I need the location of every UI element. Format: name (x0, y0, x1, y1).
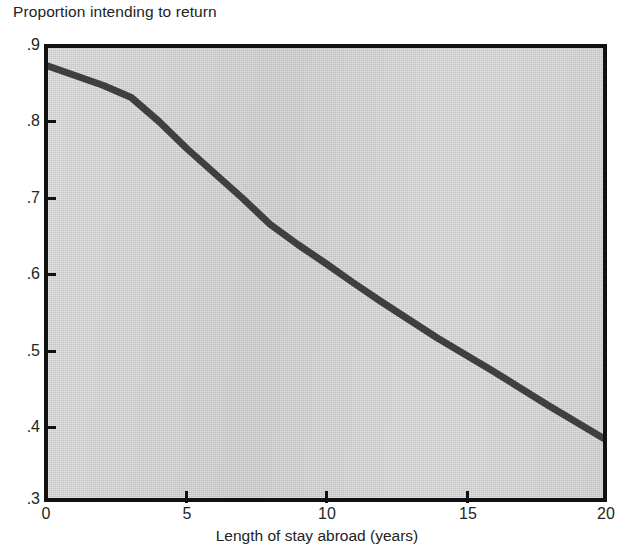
line-series-proportion-intending-to-return (48, 66, 603, 438)
x-axis-title: Length of stay abroad (years) (0, 527, 634, 545)
chart-figure: Proportion intending to return .9 .8 .7 … (0, 0, 634, 559)
y-axis-title: Proportion intending to return (13, 3, 217, 21)
y-tick-label-0.4: .4 (4, 418, 40, 436)
y-tick-label-0.5: .5 (4, 342, 40, 360)
plot-area (44, 44, 607, 502)
y-tick-label-0.8: .8 (4, 112, 40, 130)
x-tick-label-0: 0 (26, 505, 66, 523)
x-tick-label-15: 15 (448, 505, 488, 523)
y-tick-label-0.9: .9 (4, 36, 40, 54)
x-tick-label-5: 5 (167, 505, 207, 523)
data-line-svg (48, 48, 603, 498)
y-tick-label-0.7: .7 (4, 189, 40, 207)
x-tick-label-20: 20 (586, 505, 626, 523)
y-tick-label-0.6: .6 (4, 265, 40, 283)
x-tick-label-10: 10 (307, 505, 347, 523)
